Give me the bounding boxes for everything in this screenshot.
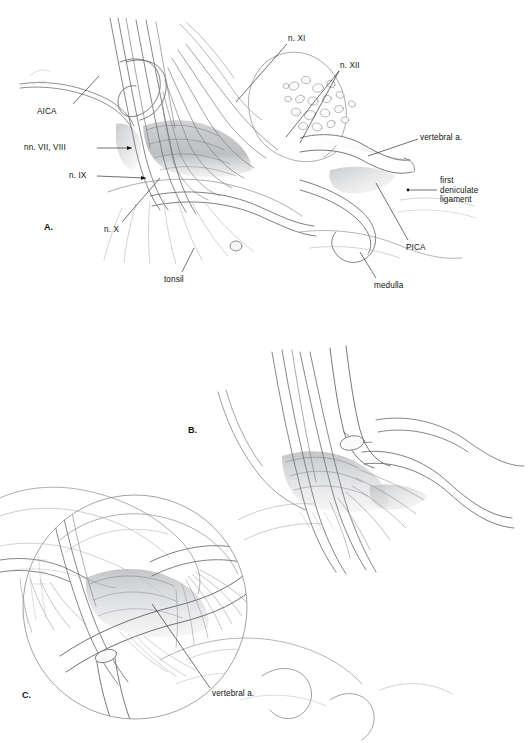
leader-tonsil (182, 248, 194, 272)
label-n-xii: n. XII (340, 61, 360, 71)
label-vertebral-a-panel-a: vertebral a. (420, 133, 462, 143)
leader-n-ix (97, 176, 146, 178)
panel-overlap-strokes (238, 504, 322, 540)
label-nn-vii-viii: nn. VII, VIII (24, 143, 66, 153)
panel-letter-a: A. (44, 222, 53, 232)
anatomical-illustration (0, 0, 531, 743)
leader-medulla (360, 252, 376, 278)
label-medulla: medulla (374, 281, 403, 291)
leader-n-x (122, 178, 160, 222)
leader-dot-deniculate (407, 189, 410, 192)
label-n-x: n. X (104, 225, 119, 235)
leader-vertebral-a (368, 139, 418, 156)
leader-aica (73, 76, 99, 104)
label-vertebral-a-panel-c: vertebral a. (212, 689, 254, 699)
panel-letter-b: B. (188, 425, 197, 435)
label-pica: PICA (406, 243, 426, 253)
label-n-xi: n. XI (288, 34, 305, 44)
panel-letter-c: C. (22, 690, 31, 700)
label-aica: AICA (37, 107, 57, 117)
figure-root: A. B. C. AICA nn. VII, VIII n. IX n. X t… (0, 0, 531, 743)
panel-a-artwork (20, 18, 476, 264)
leader-n-xi (236, 44, 287, 102)
label-n-ix: n. IX (69, 171, 86, 181)
label-tonsil: tonsil (164, 275, 184, 285)
leader-pica (376, 183, 408, 240)
label-first-deniculate-ligament: first deniculate ligament (440, 176, 478, 205)
